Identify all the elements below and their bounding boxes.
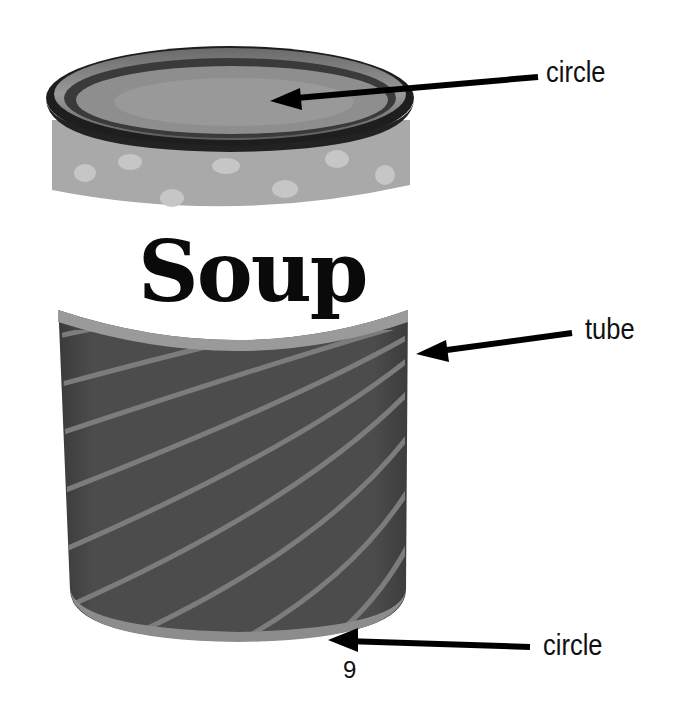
annotation-top-circle: circle [546,55,606,89]
arrow-side [416,333,572,362]
can-lid [46,46,414,152]
annotation-tube: tube [585,312,635,346]
annotation-bottom-circle: circle [543,628,603,662]
soup-can-illustration [0,0,694,712]
can-label-text: Soup [138,222,367,321]
page-number: 9 [343,656,356,684]
arrow-bottom [328,628,530,652]
diagram-page: Soup circle tube circle 9 [0,0,694,712]
